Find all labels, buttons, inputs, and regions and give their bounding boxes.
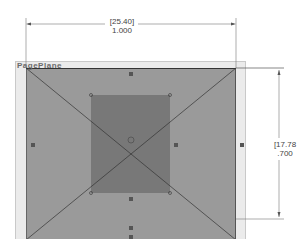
height-metric: [17.78 [270,140,300,149]
inner-right-handle[interactable] [174,143,178,147]
left-handle[interactable] [31,143,35,147]
width-dimension[interactable]: [25.40] 1.000 [107,17,137,35]
height-dimension[interactable]: [17.78 .700 [270,140,300,158]
height-imperial: .700 [270,149,300,158]
width-imperial: 1.000 [107,26,137,35]
outer-bottom-handle[interactable] [129,235,133,239]
inner-bottom-handle[interactable] [129,197,133,201]
right-handle[interactable] [240,143,244,147]
bottom-handle[interactable] [129,226,133,230]
sketch-lines [0,0,302,239]
width-metric: [25.40] [107,17,137,26]
top-handle[interactable] [129,72,133,76]
